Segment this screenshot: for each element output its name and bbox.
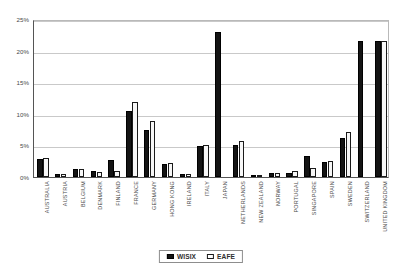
legend-swatch-eafe-icon <box>207 254 214 259</box>
gridline <box>34 53 388 54</box>
bar-wisix-singapore <box>304 156 309 177</box>
bar-eafe-sweden <box>346 132 351 178</box>
bar-wisix-japan <box>215 32 220 177</box>
legend-item-eafe[interactable]: EAFE <box>207 253 235 260</box>
bar-eafe-belgium <box>79 169 84 177</box>
bar-eafe-france <box>132 102 137 177</box>
bar-eafe-hong-kong <box>168 163 173 177</box>
bar-wisix-australia <box>37 159 42 177</box>
gridline <box>34 84 388 85</box>
bar-wisix-belgium <box>73 169 78 177</box>
bar-eafe-germany <box>150 121 155 177</box>
bar-eafe-ireland <box>186 174 191 177</box>
gridline <box>34 21 388 22</box>
y-axis-tick-label: 25% <box>17 16 29 23</box>
bar-wisix-hong-kong <box>162 164 167 177</box>
bar-eafe-denmark <box>97 172 102 177</box>
y-axis-tick-label: 5% <box>20 142 29 149</box>
legend-swatch-wisix-icon <box>167 254 174 259</box>
bar-wisix-austria <box>55 174 60 177</box>
bar-wisix-sweden <box>340 138 345 177</box>
legend-label: EAFE <box>217 253 235 260</box>
bar-wisix-new-zealand <box>251 175 256 177</box>
bar-chart: 0%5%10%15%20%25% AUSTRALIAAUSTRIABELGIUM… <box>0 0 402 276</box>
bar-wisix-france <box>126 111 131 177</box>
bar-wisix-spain <box>322 162 327 177</box>
bar-eafe-portugal <box>292 171 297 177</box>
bar-wisix-denmark <box>91 171 96 177</box>
bar-wisix-finland <box>108 160 113 177</box>
bar-eafe-netherlands <box>239 141 244 177</box>
y-axis-tick-label: 15% <box>17 79 29 86</box>
bar-wisix-ireland <box>180 174 185 177</box>
bar-eafe-australia <box>43 158 48 177</box>
bar-eafe-united-kingdom <box>381 41 386 178</box>
x-axis-labels: AUSTRALIAAUSTRIABELGIUMDENMARKFINLANDFRA… <box>0 178 402 244</box>
bar-eafe-new-zealand <box>257 175 262 177</box>
legend-item-wisix[interactable]: WISIX <box>167 253 196 260</box>
y-axis-tick-label: 10% <box>17 111 29 118</box>
bar-wisix-netherlands <box>233 145 238 177</box>
bar-eafe-austria <box>61 174 66 177</box>
bar-eafe-singapore <box>310 168 315 177</box>
bar-wisix-norway <box>269 173 274 177</box>
gridline <box>34 147 388 148</box>
chart-legend: WISIXEAFE <box>159 250 243 263</box>
bar-wisix-united-kingdom <box>375 41 380 178</box>
plot-area <box>33 20 389 178</box>
bar-wisix-switzerland <box>358 41 363 178</box>
bar-wisix-portugal <box>286 173 291 177</box>
bar-eafe-spain <box>328 161 333 177</box>
y-axis-tick-label: 20% <box>17 48 29 55</box>
gridline <box>34 116 388 117</box>
legend-label: WISIX <box>177 253 196 260</box>
bar-wisix-italy <box>197 146 202 177</box>
bar-eafe-italy <box>203 145 208 177</box>
bar-eafe-finland <box>114 171 119 177</box>
bar-wisix-germany <box>144 130 149 177</box>
bar-eafe-norway <box>275 173 280 177</box>
